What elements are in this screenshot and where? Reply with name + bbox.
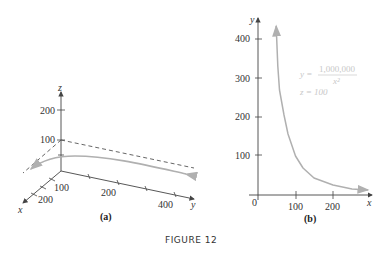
caption-a: (a): [100, 211, 112, 223]
y-tick-label-200: 200: [235, 111, 250, 122]
x-tick-label-200: 200: [325, 201, 340, 212]
z-tick-label-200: 200: [40, 105, 55, 116]
x-tick-label-200: 200: [38, 194, 53, 205]
z-axis-label: z: [57, 82, 62, 93]
y-tick-label-300: 300: [235, 73, 250, 84]
x-tick-label-100: 100: [54, 182, 69, 193]
equation-numerator: 1,000,000: [319, 64, 356, 74]
curve-2d: [277, 34, 369, 190]
figure-title: FIGURE 12: [165, 235, 217, 245]
y-axis: [61, 171, 194, 199]
origin-label: 0: [252, 197, 257, 208]
panel-a: z 200 100 y 200 400 x 100 200 (a): [17, 82, 196, 223]
x-axis-label: x: [17, 204, 23, 215]
curve-3d: [31, 156, 186, 174]
y-tick-label-400: 400: [158, 199, 173, 210]
panel-b: y 400 300 200 100 x 0 100 200 y = 1,000,…: [235, 14, 372, 225]
caption-b: (b): [304, 213, 316, 225]
y-axis-label: y: [190, 199, 196, 210]
z-tick-label-100: 100: [40, 134, 55, 145]
y-axis-label: y: [249, 14, 255, 25]
x-axis-label: x: [366, 197, 372, 208]
figure-canvas: z 200 100 y 200 400 x 100 200 (a) y: [0, 0, 389, 259]
equation-denominator: x²: [332, 76, 340, 86]
x-tick-label-100: 100: [288, 201, 303, 212]
equation-lhs: y =: [299, 69, 312, 79]
plane-edge-y: [61, 140, 194, 168]
y-tick-label-200: 200: [101, 187, 116, 198]
y-tick-label-100: 100: [235, 150, 250, 161]
plane-label: z = 100: [299, 87, 328, 97]
y-tick-label-400: 400: [235, 33, 250, 44]
